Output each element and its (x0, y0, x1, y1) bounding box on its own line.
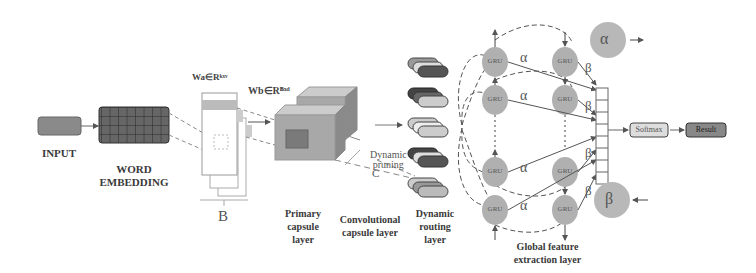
beta-weight-label: β (585, 145, 592, 161)
gru-label: GRU (485, 205, 505, 213)
beta-weight-label: β (585, 183, 592, 199)
conv-capsule-label: Convolutional capsule layer (330, 213, 410, 239)
gru-label: GRU (555, 57, 575, 65)
primary-capsule-cube (275, 105, 345, 160)
c-label: C (372, 167, 379, 179)
alpha-weight-label: α (520, 88, 527, 104)
result-label: Result (686, 125, 726, 134)
b-bracket-label: B (218, 208, 228, 225)
gru-label: GRU (485, 57, 505, 65)
wb-label: Wb∈Rᴮˣᵈ (248, 85, 290, 96)
alpha-weight-label: α (520, 50, 527, 66)
global-feature-label: Global feature extraction layer (495, 240, 600, 266)
input-box (38, 117, 81, 135)
gru-label: GRU (555, 167, 575, 175)
concat-vector (596, 88, 608, 184)
primary-capsule-label: Primary capsule layer (268, 207, 338, 246)
softmax-label: Softmax (630, 125, 668, 134)
alpha-symbol: α (600, 30, 608, 48)
gru-label: GRU (485, 95, 505, 103)
routing-capsule-group (408, 58, 448, 197)
gru-label: GRU (555, 95, 575, 103)
word-embedding-grid (99, 107, 169, 143)
alpha-weight-label: α (520, 160, 527, 176)
beta-weight-label: β (585, 60, 592, 76)
gru-grid (482, 47, 578, 225)
wa-label: Wa∈Rᵏˣᵛ (192, 72, 228, 82)
word-embedding-label: WORD EMBEDDING (88, 163, 180, 189)
beta-weight-label: β (585, 98, 592, 114)
alpha-weight-label: α (520, 198, 527, 214)
beta-symbol: β (605, 190, 613, 208)
gru-label: GRU (485, 167, 505, 175)
dynamic-routing-label: Dynamic routing layer (410, 207, 460, 246)
gru-label: GRU (555, 205, 575, 213)
input-label: INPUT (34, 147, 84, 160)
